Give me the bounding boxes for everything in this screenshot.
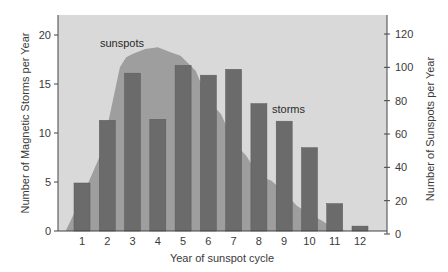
- storm-bar: [200, 75, 216, 231]
- x-tick-label: 12: [354, 235, 366, 247]
- storm-bar: [226, 69, 242, 231]
- x-tick-label: 8: [256, 235, 262, 247]
- x-tick-label: 2: [104, 235, 110, 247]
- right-tick-label: 100: [395, 61, 413, 73]
- x-tick-label: 10: [303, 235, 315, 247]
- right-tick-label: 80: [395, 95, 407, 107]
- storm-bar: [352, 226, 368, 231]
- left-y-axis-title: Number of Magnetic Storms per Year: [19, 32, 31, 213]
- storm-bar: [74, 183, 90, 231]
- x-ticks: 123456789101112: [79, 235, 366, 247]
- right-tick-label: 60: [395, 128, 407, 140]
- right-tick-label: 120: [395, 28, 413, 40]
- right-tick-label: 0: [395, 228, 401, 240]
- x-tick-label: 6: [205, 235, 211, 247]
- right-tick-label: 40: [395, 161, 407, 173]
- storm-bar: [327, 204, 343, 231]
- storm-bar: [276, 121, 292, 231]
- annotation-sunspots: sunspots: [100, 37, 145, 49]
- right-y-axis-title: Number of Sunspots per Year: [424, 57, 436, 202]
- left-tick-label: 10: [39, 127, 51, 139]
- storm-bar: [99, 120, 115, 231]
- x-tick-label: 9: [281, 235, 287, 247]
- left-tick-label: 15: [39, 78, 51, 90]
- storm-bar: [150, 119, 166, 231]
- x-tick-label: 4: [155, 235, 161, 247]
- x-tick-label: 1: [79, 235, 85, 247]
- x-axis-title: Year of sunspot cycle: [170, 252, 274, 264]
- left-tick-label: 5: [45, 176, 51, 188]
- left-tick-label: 20: [39, 29, 51, 41]
- x-tick-label: 7: [231, 235, 237, 247]
- storm-bar: [302, 148, 318, 231]
- x-tick-label: 3: [129, 235, 135, 247]
- left-tick-label: 0: [45, 225, 51, 237]
- sunspot-storm-chart: 05101520 020406080100120 123456789101112…: [0, 0, 448, 272]
- storm-bar: [251, 104, 267, 231]
- right-y-ticks: 020406080100120: [384, 28, 413, 240]
- storm-bar: [125, 73, 141, 231]
- x-tick-label: 11: [329, 235, 340, 247]
- storm-bar: [175, 65, 191, 231]
- left-y-ticks: 05101520: [39, 29, 58, 237]
- x-tick-label: 5: [180, 235, 186, 247]
- annotation-storms: storms: [272, 103, 306, 115]
- right-tick-label: 20: [395, 195, 407, 207]
